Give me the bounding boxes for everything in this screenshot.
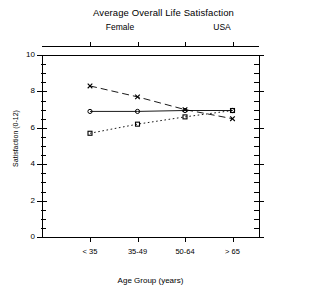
x-tick-label: 35-49 [115,247,161,256]
axis-bottom [42,237,259,238]
chart-title: Average Overall Life Satisfaction [0,7,327,18]
series-line-square [90,111,233,134]
x-tick-label: 50-64 [162,247,208,256]
y-tick-label: 10 [13,50,35,59]
panel-strip-axis [42,46,259,47]
y-tick-major-right [254,237,264,238]
plot-series-layer [42,55,259,237]
x-tick [233,237,234,242]
chart-figure: Average Overall Life Satisfaction Female… [0,0,327,305]
x-tick-label: < 35 [67,247,113,256]
x-tick [138,237,139,242]
panel-label-usa: USA [192,22,252,32]
panel-strip-tick [185,42,186,47]
panel-strip-tick [138,42,139,47]
y-axis-title: Satisfaction (0-12) [12,79,19,199]
plot-frame: 1086420 < 3535-4950-64> 65 [42,55,259,237]
panel-label-female: Female [90,22,150,32]
x-tick [185,237,186,242]
y-tick-label: 0 [13,232,35,241]
y-tick-major [37,237,47,238]
series-line-circle [90,111,233,112]
panel-strip-tick [90,42,91,47]
panel-strip-tick [233,42,234,47]
x-axis-title: Age Group (years) [42,276,259,285]
x-tick [90,237,91,242]
x-tick-label: > 65 [210,247,256,256]
axis-right [259,55,260,237]
